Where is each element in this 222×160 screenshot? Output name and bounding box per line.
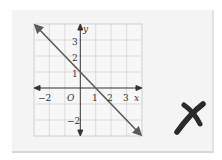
cross-mark-icon: [177, 104, 203, 132]
x-axis-label: x: [134, 93, 139, 103]
y-tick-label: 2: [72, 53, 78, 63]
y-tick-label: −2: [67, 116, 80, 126]
origin-label: O: [67, 93, 75, 103]
x-tick-label: 2: [107, 93, 113, 103]
y-tick-label: 3: [72, 37, 78, 47]
x-tick-label: −2: [38, 93, 51, 103]
y-axis-label: y: [82, 24, 89, 34]
x-tick-label: 1: [92, 93, 98, 103]
y-tick-label: 1: [72, 69, 78, 79]
coordinate-graph: y x O −2 1 2 3 3 2 1 −2: [0, 0, 222, 160]
x-tick-label: 3: [123, 93, 129, 103]
